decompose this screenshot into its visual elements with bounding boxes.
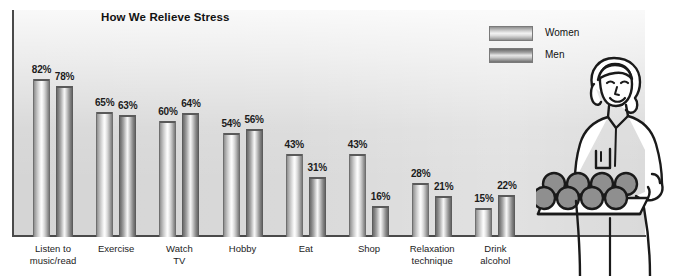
bar-women-2: 60%: [159, 121, 176, 237]
bar-cap: [34, 79, 49, 81]
bar-cap: [476, 208, 491, 210]
bar-value-label: 56%: [244, 114, 263, 125]
category-label-3: Hobby: [209, 243, 277, 255]
bar-body: [435, 196, 452, 237]
bar-cap: [310, 177, 325, 179]
legend-swatch-men-icon: [489, 48, 533, 63]
bar-value-label: 63%: [118, 100, 137, 111]
bar-body: [475, 208, 492, 237]
bar-women-5: 43%: [349, 154, 366, 237]
bar-body: [349, 154, 366, 237]
bar-men-0: 78%: [56, 86, 73, 237]
bar-men-5: 16%: [372, 206, 389, 237]
category-label-0: Listen to music/read: [19, 243, 87, 266]
bar-body: [286, 154, 303, 237]
bar-cap: [247, 129, 262, 131]
y-axis-line: [12, 10, 14, 237]
bar-value-label: 43%: [348, 139, 367, 150]
bar-cap: [57, 86, 72, 88]
bar-body: [182, 113, 199, 237]
category-label-1: Exercise: [82, 243, 150, 255]
bar-body: [33, 79, 50, 237]
bar-value-label: 64%: [181, 98, 200, 109]
bar-body: [309, 177, 326, 237]
category-label-4: Eat: [272, 243, 340, 255]
bar-men-4: 31%: [309, 177, 326, 237]
bar-body: [412, 183, 429, 237]
bar-cap: [287, 154, 302, 156]
bar-value-label: 15%: [474, 193, 493, 204]
bar-value-label: 43%: [285, 139, 304, 150]
bar-men-7: 22%: [498, 195, 515, 237]
bar-cap: [499, 195, 514, 197]
legend-label-men: Men: [545, 49, 564, 60]
bar-value-label: 31%: [308, 162, 327, 173]
bar-men-1: 63%: [119, 115, 136, 237]
bar-women-1: 65%: [96, 112, 113, 237]
bar-body: [223, 133, 240, 237]
legend-swatch-women-icon: [489, 26, 533, 41]
bar-value-label: 16%: [371, 191, 390, 202]
bar-cap: [183, 113, 198, 115]
bar-body: [159, 121, 176, 237]
bar-body: [498, 195, 515, 237]
bar-cap: [436, 196, 451, 198]
bar-body: [246, 129, 263, 237]
bar-men-2: 64%: [182, 113, 199, 237]
bar-women-7: 15%: [475, 208, 492, 237]
bar-cap: [373, 206, 388, 208]
chart-title: How We Relieve Stress: [101, 11, 229, 23]
bar-value-label: 65%: [95, 97, 114, 108]
bar-body: [119, 115, 136, 237]
bar-body: [56, 86, 73, 237]
bar-women-3: 54%: [223, 133, 240, 237]
category-label-7: Drink alcohol: [461, 243, 529, 266]
bar-cap: [413, 183, 428, 185]
bar-women-0: 82%: [33, 79, 50, 237]
bar-value-label: 60%: [158, 106, 177, 117]
category-label-2: Watch TV: [145, 243, 213, 266]
bar-cap: [120, 115, 135, 117]
bar-body: [372, 206, 389, 237]
bar-men-6: 21%: [435, 196, 452, 237]
bar-men-3: 56%: [246, 129, 263, 237]
bar-cap: [160, 121, 175, 123]
legend-label-women: Women: [545, 27, 579, 38]
bar-women-6: 28%: [412, 183, 429, 237]
bar-cap: [350, 154, 365, 156]
bar-cap: [97, 112, 112, 114]
stress-relief-bar-chart: How We Relieve Stress 82%78%65%63%60%64%…: [0, 0, 675, 276]
bar-body: [96, 112, 113, 237]
bar-value-label: 21%: [434, 181, 453, 192]
bar-value-label: 22%: [497, 180, 516, 191]
bar-women-4: 43%: [286, 154, 303, 237]
category-label-5: Shop: [335, 243, 403, 255]
bar-cap: [224, 133, 239, 135]
bar-value-label: 54%: [221, 118, 240, 129]
bar-value-label: 82%: [32, 64, 51, 75]
bar-value-label: 28%: [411, 168, 430, 179]
bar-value-label: 78%: [55, 71, 74, 82]
category-label-6: Relaxation technique: [398, 243, 466, 266]
